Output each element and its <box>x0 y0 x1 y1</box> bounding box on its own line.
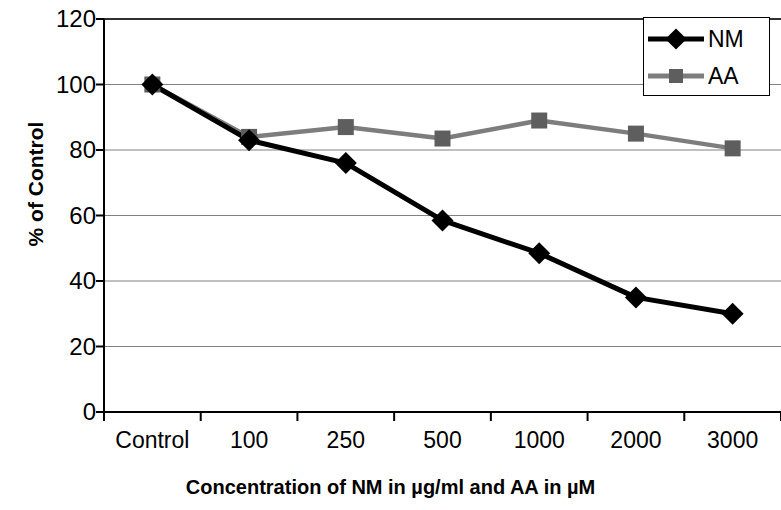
legend-key-nm <box>644 24 708 54</box>
data-point-nm <box>625 286 647 308</box>
legend: NM AA <box>643 17 770 96</box>
diamond-marker-icon <box>665 28 686 49</box>
x-axis-title: Concentration of NM in µg/ml and AA in µ… <box>0 476 781 499</box>
legend-key-aa <box>644 61 708 91</box>
x-tick-label: 500 <box>394 428 491 462</box>
data-point-aa <box>628 126 644 142</box>
data-point-aa <box>435 131 451 147</box>
data-point-nm <box>528 242 550 264</box>
x-tick-label: 250 <box>297 428 394 462</box>
x-tick-label: 3000 <box>684 428 781 462</box>
data-point-aa <box>338 119 354 135</box>
legend-item-nm: NM <box>644 20 771 58</box>
data-point-aa <box>531 113 547 129</box>
x-tick-label: 100 <box>201 428 298 462</box>
data-point-nm <box>432 209 454 231</box>
data-series-layer <box>141 74 743 325</box>
chart-container: % of Control 020406080100120 Control1002… <box>0 0 781 510</box>
legend-item-aa: AA <box>644 57 771 95</box>
square-marker-icon <box>669 69 683 83</box>
data-point-nm <box>335 152 357 174</box>
data-point-nm <box>722 303 744 325</box>
y-axis-ticks <box>96 19 104 412</box>
x-tick-label: 1000 <box>491 428 588 462</box>
x-axis-ticks <box>104 412 781 421</box>
legend-label-nm: NM <box>708 28 744 51</box>
x-tick-label: 2000 <box>588 428 685 462</box>
series-line-nm <box>152 85 732 314</box>
legend-label-aa: AA <box>708 65 739 88</box>
x-axis-tick-labels: Control100250500100020003000 <box>104 428 781 462</box>
x-tick-label: Control <box>104 428 201 462</box>
data-point-aa <box>725 140 741 156</box>
